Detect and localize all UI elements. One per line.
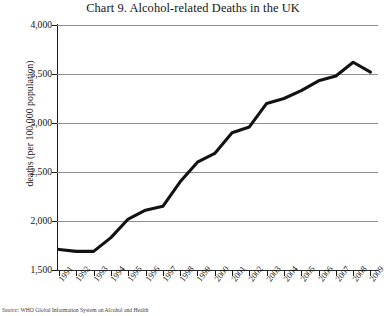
chart-figure: Chart 9. Alcohol-related Deaths in the U…: [0, 0, 386, 316]
source-text: WHO Global Information System on Alcohol…: [21, 307, 149, 313]
data-series-line: [57, 25, 378, 270]
plot-area: [57, 25, 378, 270]
y-tick-label-3500: 3,500: [6, 69, 52, 79]
y-tick-label-4000: 4,000: [6, 20, 52, 30]
y-tick-label-1500: 1,500: [6, 265, 52, 275]
source-note: Source: WHO Global Information System on…: [2, 307, 386, 314]
y-tick-label-2000: 2,000: [6, 216, 52, 226]
source-label: Source:: [2, 307, 19, 313]
y-tick-label-3000: 3,000: [6, 118, 52, 128]
chart-title: Chart 9. Alcohol-related Deaths in the U…: [0, 1, 386, 16]
y-tick-label-2500: 2,500: [6, 167, 52, 177]
